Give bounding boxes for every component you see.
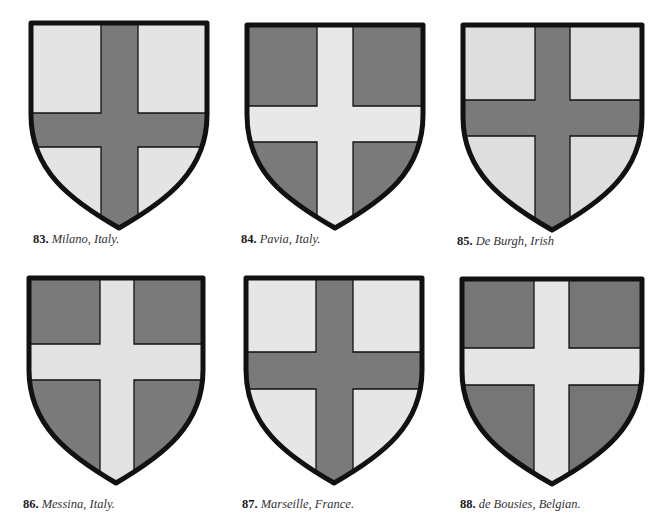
caption-86: 86.Messina, Italy.: [23, 497, 115, 512]
shield-88: [459, 276, 645, 488]
shield-name: Milano, Italy.: [52, 232, 120, 246]
shield-cross-icon: [460, 22, 645, 234]
shield-name: Messina, Italy.: [42, 497, 115, 511]
shield-83: [28, 20, 210, 232]
shield-86: [26, 275, 206, 487]
shield-number: 88.: [460, 497, 476, 511]
shield-number: 84.: [241, 232, 257, 246]
shield-85: [460, 22, 645, 234]
shield-84: [244, 22, 426, 232]
shield-cross-icon: [26, 275, 206, 487]
shield-name: Marseille, France.: [261, 497, 354, 511]
shield-number: 83.: [33, 232, 49, 246]
shield-number: 86.: [23, 497, 39, 511]
shield-cross-icon: [28, 20, 210, 232]
shield-name: de Bousies, Belgian.: [479, 497, 581, 511]
shield-87: [243, 275, 425, 487]
caption-88: 88.de Bousies, Belgian.: [460, 497, 581, 512]
shield-name: Pavia, Italy.: [260, 232, 321, 246]
shield-number: 87.: [242, 497, 258, 511]
caption-85: 85.De Burgh, Irish: [457, 234, 554, 249]
caption-83: 83.Milano, Italy.: [33, 232, 119, 247]
shield-cross-icon: [243, 275, 425, 487]
shield-cross-icon: [244, 22, 426, 232]
shield-number: 85.: [457, 234, 473, 248]
shield-cross-icon: [459, 276, 645, 488]
shield-name: De Burgh, Irish: [476, 234, 554, 248]
caption-87: 87.Marseille, France.: [242, 497, 354, 512]
caption-84: 84.Pavia, Italy.: [241, 232, 320, 247]
